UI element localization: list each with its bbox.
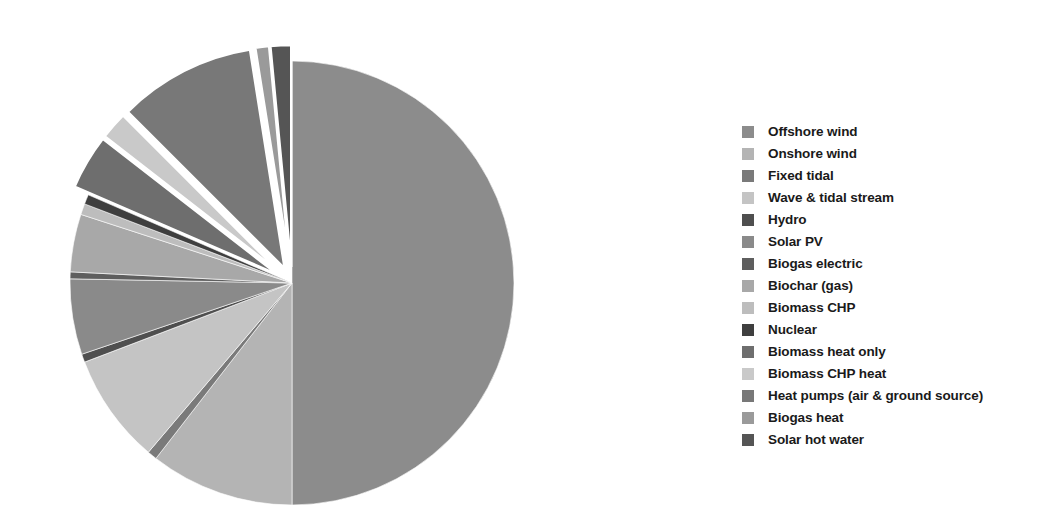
pie-chart <box>0 0 560 519</box>
legend-item-label: Biomass CHP <box>768 297 855 319</box>
legend-swatch-icon <box>742 214 754 226</box>
legend-item[interactable]: Biogas heat <box>742 407 1042 429</box>
legend-item-label: Solar hot water <box>768 429 864 451</box>
legend-item[interactable]: Fixed tidal <box>742 165 1042 187</box>
pie-chart-svg <box>0 0 560 519</box>
legend-item[interactable]: Biomass CHP heat <box>742 363 1042 385</box>
legend-item-label: Biomass CHP heat <box>768 363 886 385</box>
legend-swatch-icon <box>742 258 754 270</box>
legend-item[interactable]: Solar hot water <box>742 429 1042 451</box>
legend-swatch-icon <box>742 236 754 248</box>
legend-swatch-icon <box>742 324 754 336</box>
legend-item-label: Biogas electric <box>768 253 863 275</box>
legend-item[interactable]: Hydro <box>742 209 1042 231</box>
legend-swatch-icon <box>742 192 754 204</box>
legend-item[interactable]: Heat pumps (air & ground source) <box>742 385 1042 407</box>
chart-canvas: Offshore windOnshore windFixed tidalWave… <box>0 0 1056 519</box>
legend-item[interactable]: Biomass CHP <box>742 297 1042 319</box>
pie-slice[interactable] <box>292 61 514 505</box>
legend-item-label: Nuclear <box>768 319 817 341</box>
legend-item[interactable]: Onshore wind <box>742 143 1042 165</box>
legend-item-label: Heat pumps (air & ground source) <box>768 385 983 407</box>
legend-item-label: Biomass heat only <box>768 341 886 363</box>
legend-swatch-icon <box>742 302 754 314</box>
legend-swatch-icon <box>742 126 754 138</box>
legend-swatch-icon <box>742 434 754 446</box>
legend-swatch-icon <box>742 390 754 402</box>
chart-legend: Offshore windOnshore windFixed tidalWave… <box>742 121 1042 451</box>
legend-item-label: Fixed tidal <box>768 165 834 187</box>
legend-item-label: Wave & tidal stream <box>768 187 894 209</box>
legend-item[interactable]: Biochar (gas) <box>742 275 1042 297</box>
legend-swatch-icon <box>742 346 754 358</box>
legend-item-label: Offshore wind <box>768 121 857 143</box>
legend-item[interactable]: Biogas electric <box>742 253 1042 275</box>
legend-swatch-icon <box>742 280 754 292</box>
legend-item[interactable]: Solar PV <box>742 231 1042 253</box>
legend-item-label: Hydro <box>768 209 807 231</box>
legend-item[interactable]: Wave & tidal stream <box>742 187 1042 209</box>
pie-slice-group <box>70 45 514 505</box>
legend-swatch-icon <box>742 170 754 182</box>
legend-item[interactable]: Biomass heat only <box>742 341 1042 363</box>
legend-item[interactable]: Offshore wind <box>742 121 1042 143</box>
legend-item[interactable]: Nuclear <box>742 319 1042 341</box>
legend-swatch-icon <box>742 412 754 424</box>
legend-item-label: Solar PV <box>768 231 823 253</box>
legend-swatch-icon <box>742 368 754 380</box>
legend-item-label: Biogas heat <box>768 407 843 429</box>
legend-swatch-icon <box>742 148 754 160</box>
legend-item-label: Onshore wind <box>768 143 857 165</box>
legend-item-label: Biochar (gas) <box>768 275 853 297</box>
